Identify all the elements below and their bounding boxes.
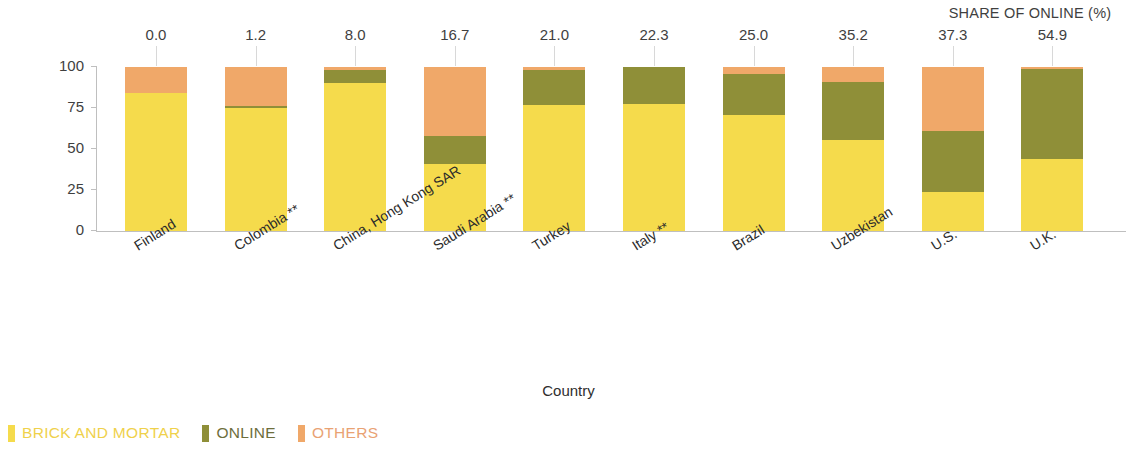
leader-line <box>156 46 157 66</box>
bar-segment-brick-and-mortar <box>922 192 984 231</box>
leader-line <box>455 46 456 66</box>
leader-line <box>1052 46 1053 66</box>
leader-line <box>654 46 655 66</box>
leader-line <box>554 46 555 66</box>
share-of-online-header: SHARE OF ONLINE (%) <box>930 5 1130 21</box>
share-of-online-value: 35.2 <box>808 26 898 43</box>
bar-segment-others <box>125 67 187 93</box>
bar-segment-online <box>1021 69 1083 159</box>
bar-segment-others <box>922 67 984 131</box>
bar-brazil[interactable] <box>723 67 785 231</box>
bar-u-k[interactable] <box>1021 67 1083 231</box>
share-of-online-value: 54.9 <box>1007 26 1097 43</box>
legend-item-others[interactable]: OTHERS <box>298 424 378 442</box>
share-of-online-value: 25.0 <box>709 26 799 43</box>
bar-segment-brick-and-mortar <box>125 93 187 231</box>
share-of-online-value: 21.0 <box>509 26 599 43</box>
leader-line <box>256 46 257 66</box>
bar-segment-online <box>324 70 386 83</box>
legend-item-brick-and-mortar[interactable]: BRICK AND MORTAR <box>8 424 180 442</box>
y-axis-line <box>96 66 97 232</box>
y-tick-label: 50 <box>44 139 84 156</box>
y-tick-label: 75 <box>44 98 84 115</box>
bar-segment-brick-and-mortar <box>723 115 785 231</box>
legend-label: BRICK AND MORTAR <box>22 424 180 442</box>
legend-label: ONLINE <box>216 424 276 442</box>
bar-colombia[interactable] <box>225 67 287 231</box>
y-tick-label: 0 <box>44 221 84 238</box>
legend-swatch <box>8 425 15 442</box>
x-axis-title: Country <box>0 382 1137 399</box>
bar-china-hong-kong-sar[interactable] <box>324 67 386 231</box>
bar-u-s[interactable] <box>922 67 984 231</box>
legend-item-online[interactable]: ONLINE <box>202 424 276 442</box>
bar-segment-brick-and-mortar <box>324 83 386 231</box>
share-of-online-value: 37.3 <box>908 26 998 43</box>
leader-line <box>953 46 954 66</box>
y-tick-mark <box>91 66 96 67</box>
legend-swatch <box>298 425 305 442</box>
share-of-online-value: 22.3 <box>609 26 699 43</box>
bar-segment-online <box>523 70 585 104</box>
bar-segment-brick-and-mortar <box>623 104 685 231</box>
legend-swatch <box>202 425 209 442</box>
bar-italy[interactable] <box>623 67 685 231</box>
bar-segment-others <box>424 67 486 136</box>
bar-segment-brick-and-mortar <box>1021 159 1083 231</box>
bar-finland[interactable] <box>125 67 187 231</box>
bar-segment-online <box>723 74 785 115</box>
bar-segment-others <box>822 67 884 82</box>
share-of-online-value: 16.7 <box>410 26 500 43</box>
y-tick-label: 25 <box>44 180 84 197</box>
chart-legend: BRICK AND MORTARONLINEOTHERS <box>8 424 378 442</box>
leader-line <box>754 46 755 66</box>
share-of-online-value: 8.0 <box>310 26 400 43</box>
bar-segment-online <box>922 131 984 192</box>
y-tick-mark <box>91 107 96 108</box>
bar-uzbekistan[interactable] <box>822 67 884 231</box>
legend-label: OTHERS <box>312 424 378 442</box>
y-tick-mark <box>91 230 96 231</box>
share-of-online-value: 0.0 <box>111 26 201 43</box>
bar-segment-others <box>225 67 287 106</box>
leader-line <box>853 46 854 66</box>
y-tick-mark <box>91 189 96 190</box>
share-of-online-value: 1.2 <box>211 26 301 43</box>
chart-figure: SHARE OF ONLINE (%) 0.01.28.016.721.022.… <box>0 0 1137 450</box>
leader-line <box>355 46 356 66</box>
y-tick-mark <box>91 148 96 149</box>
plot-area: 0255075100 <box>96 66 1126 232</box>
y-tick-label: 100 <box>44 57 84 74</box>
bar-segment-online <box>424 136 486 163</box>
bar-turkey[interactable] <box>523 67 585 231</box>
bar-segment-online <box>822 82 884 140</box>
bar-segment-online <box>623 67 685 104</box>
bar-segment-brick-and-mortar <box>523 105 585 231</box>
bar-saudi-arabia[interactable] <box>424 67 486 231</box>
